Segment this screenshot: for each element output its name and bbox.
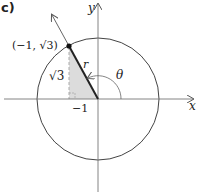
panel-label: c) — [1, 0, 15, 15]
unit-circle-diagram: c) y x (−1, √3) √3 r θ −1 — [0, 0, 199, 193]
tick-label-minus-one: −1 — [72, 102, 88, 115]
x-axis-label: x — [189, 99, 196, 113]
point-marker — [66, 43, 71, 48]
y-axis-label: y — [87, 1, 95, 15]
height-label: √3 — [49, 69, 64, 83]
point-label: (−1, √3) — [12, 39, 58, 52]
theta-label: θ — [116, 68, 124, 82]
radius-label: r — [83, 58, 89, 71]
